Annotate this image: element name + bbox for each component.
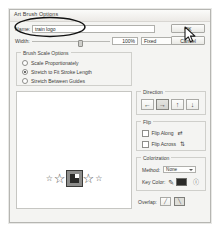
- radio-stretch-between-guides[interactable]: Stretch Between Guides: [22, 78, 85, 84]
- brush-scale-options-title: Brush Scale Options: [21, 50, 71, 56]
- dialog-body: Name: train logo Width: 100% Fixed OK Ca…: [10, 21, 210, 222]
- direction-buttons: ← → ↑ ↓: [141, 99, 199, 110]
- arrow-down-icon[interactable]: ↓: [186, 99, 199, 110]
- colorization-group: Colorization Method: None Key Color: ✎ ⓘ: [136, 157, 206, 191]
- page-right-margin: [218, 0, 224, 234]
- checkbox-flip-across[interactable]: Flip Across ⇅: [142, 141, 185, 148]
- brush-art-preview: ☆ ☆ ☆ ☆: [17, 170, 131, 187]
- flip-across-icon: ⇅: [180, 141, 185, 147]
- radio-scale-proportionately[interactable]: Scale Proportionately: [22, 60, 79, 66]
- arrow-right-icon[interactable]: →: [156, 99, 169, 110]
- radio-label: Stretch to Fit Stroke Length: [31, 69, 92, 75]
- star-icon: ☆: [46, 175, 53, 183]
- radio-icon: [22, 60, 28, 66]
- checkbox-icon: [142, 130, 149, 137]
- width-percent-input[interactable]: 100%: [112, 37, 138, 45]
- method-value: None: [166, 167, 177, 172]
- method-select[interactable]: None: [163, 166, 196, 173]
- checkbox-flip-along[interactable]: Flip Along ⇄: [142, 130, 183, 137]
- overlap-row: Overlap: ╱ ╲: [138, 197, 185, 206]
- brush-center-inner: [70, 174, 79, 183]
- checkbox-label: Flip Along: [152, 130, 174, 136]
- key-color-row: Key Color: ✎ ⓘ: [142, 178, 199, 186]
- ok-button[interactable]: OK: [171, 24, 205, 33]
- overlap-prevent-icon[interactable]: ╲: [174, 197, 185, 206]
- flip-title: Flip: [141, 119, 153, 125]
- checkbox-icon: [142, 141, 149, 148]
- star-icon: ☆: [83, 172, 95, 185]
- arrow-left-icon[interactable]: ←: [141, 99, 154, 110]
- direction-title: Direction: [141, 89, 165, 95]
- brush-scale-options-group: Brush Scale Options Scale Proportionatel…: [16, 52, 132, 86]
- overlap-allow-icon[interactable]: ╱: [160, 197, 171, 206]
- help-icon[interactable]: ⓘ: [193, 179, 199, 185]
- radio-label: Scale Proportionately: [31, 60, 79, 66]
- name-label: Name:: [15, 26, 32, 32]
- arrow-up-icon[interactable]: ↑: [171, 99, 184, 110]
- radio-stretch-to-fit-stroke-length[interactable]: Stretch to Fit Stroke Length: [22, 69, 92, 75]
- checkbox-label: Flip Across: [152, 141, 176, 147]
- overlap-label: Overlap:: [138, 199, 157, 205]
- key-color-swatch[interactable]: [176, 178, 187, 186]
- direction-group: Direction ← → ↑ ↓: [136, 91, 206, 115]
- name-row: Name: train logo: [15, 25, 155, 33]
- method-label: Method:: [142, 167, 160, 173]
- flip-along-icon: ⇄: [177, 130, 182, 136]
- width-slider[interactable]: [32, 37, 110, 45]
- radio-label: Stretch Between Guides: [31, 78, 85, 84]
- brush-center-marker: [66, 170, 83, 187]
- radio-icon-selected: [22, 69, 28, 75]
- dialog-title: Art Brush Options: [14, 11, 58, 17]
- flip-group: Flip Flip Along ⇄ Flip Across ⇅: [136, 121, 206, 151]
- art-brush-options-dialog: Art Brush Options Name: train logo Width…: [9, 9, 211, 223]
- star-icon: ☆: [54, 172, 66, 185]
- width-mode-value: Fixed: [144, 38, 156, 44]
- key-color-label: Key Color:: [142, 179, 165, 185]
- width-label: Width:: [15, 38, 32, 44]
- width-slider-track: [32, 41, 110, 42]
- brush-preview-panel: ☆ ☆ ☆ ☆: [16, 91, 132, 209]
- eyedropper-icon[interactable]: ✎: [168, 179, 174, 186]
- radio-icon: [22, 78, 28, 84]
- width-row: Width: 100% Fixed: [15, 37, 191, 45]
- name-input[interactable]: train logo: [32, 25, 155, 33]
- width-slider-handle[interactable]: [78, 40, 83, 47]
- star-icon: ☆: [95, 175, 102, 183]
- method-row: Method: None: [142, 166, 196, 173]
- chevron-down-icon: [189, 169, 193, 171]
- cancel-button[interactable]: Cancel: [171, 36, 205, 45]
- colorization-title: Colorization: [141, 155, 171, 161]
